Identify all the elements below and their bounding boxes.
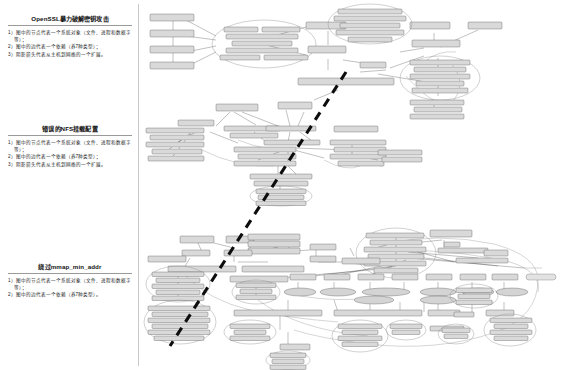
caption-line: 1）图中的节点代表一个系统对象（文件、进程和数据字等）；	[8, 140, 132, 153]
caption-rule	[8, 135, 132, 136]
caption-line: 3）阴影箭头代表从主机到网络的一个扩展。	[8, 162, 132, 169]
graph-mmap	[144, 228, 556, 370]
caption-rule	[8, 273, 132, 274]
caption-column: OpenSSL暴力破解密钥攻击 1）图中的节点代表一个系统对象（文件、进程和数据…	[0, 0, 138, 370]
caption-line: 2）图中的边代表一个依赖（养7种类型）；	[8, 154, 132, 161]
diagram-canvas	[138, 0, 565, 370]
caption-rule	[8, 25, 132, 26]
caption-title-nfs: 错误的NFS挂载配置	[8, 124, 132, 133]
caption-line: 1）图中的节点代表一个系统对象（文件、进程和数据字等）；	[8, 278, 132, 291]
caption-line: 1）图中的节点代表一个系统对象（文件、进程和数据字等）；	[8, 30, 132, 43]
provenance-graphs-svg	[138, 0, 565, 370]
caption-block-openssl: OpenSSL暴力破解密钥攻击 1）图中的节点代表一个系统对象（文件、进程和数据…	[8, 14, 132, 60]
caption-block-mmap: 绕过mmap_min_addr 1）图中的节点代表一个系统对象（文件、进程和数据…	[8, 262, 132, 300]
caption-line: 2）图中的边代表一个依赖（养7种类型）。	[8, 292, 132, 299]
caption-title-mmap: 绕过mmap_min_addr	[8, 262, 132, 271]
shadow-expansion-arrow	[170, 72, 346, 346]
caption-list-nfs: 1）图中的节点代表一个系统对象（文件、进程和数据字等）； 2）图中的边代表一个依…	[8, 140, 132, 169]
caption-line: 3）阴影箭头代表从主机到网络的一个扩展。	[8, 52, 132, 59]
document-page: OpenSSL暴力破解密钥攻击 1）图中的节点代表一个系统对象（文件、进程和数据…	[0, 0, 565, 370]
caption-line: 2）图中的边代表一个依赖（养7种类型）；	[8, 44, 132, 51]
caption-list-openssl: 1）图中的节点代表一个系统对象（文件、进程和数据字等）； 2）图中的边代表一个依…	[8, 30, 132, 59]
caption-title-openssl: OpenSSL暴力破解密钥攻击	[8, 14, 132, 23]
caption-list-mmap: 1）图中的节点代表一个系统对象（文件、进程和数据字等）； 2）图中的边代表一个依…	[8, 278, 132, 299]
caption-block-nfs: 错误的NFS挂载配置 1）图中的节点代表一个系统对象（文件、进程和数据字等）； …	[8, 124, 132, 170]
